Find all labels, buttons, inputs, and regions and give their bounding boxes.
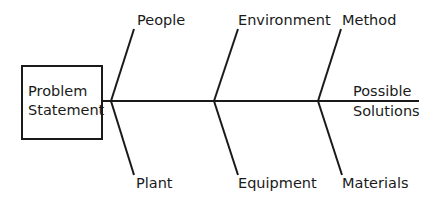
- bone-plant: [111, 101, 134, 175]
- bone-method: [318, 29, 341, 101]
- problem-statement-box: Problem Statement: [21, 65, 103, 140]
- fishbone-diagram: Problem Statement People Environment Met…: [0, 0, 438, 203]
- label-materials: Materials: [342, 175, 408, 192]
- bone-environment: [214, 29, 238, 101]
- label-method: Method: [342, 12, 396, 29]
- problem-statement-text: Problem Statement: [28, 82, 104, 120]
- label-people: People: [137, 12, 185, 29]
- bone-equipment: [214, 101, 238, 175]
- label-possible: Possible: [353, 83, 411, 100]
- label-environment: Environment: [238, 12, 331, 29]
- label-plant: Plant: [136, 175, 173, 192]
- bone-materials: [318, 101, 342, 175]
- bone-people: [111, 29, 134, 101]
- label-solutions: Solutions: [353, 103, 420, 120]
- label-equipment: Equipment: [238, 175, 317, 192]
